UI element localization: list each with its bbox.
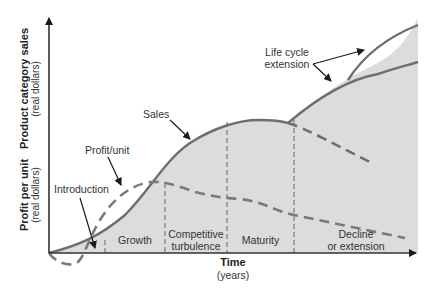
extension-callout-label: Life cycle extension xyxy=(257,46,317,70)
extension-label-line1: Life cycle xyxy=(265,46,309,58)
sales-callout-label: Sales xyxy=(143,108,169,120)
time-axis-unit: (years) xyxy=(208,269,258,281)
sales-area-fill xyxy=(49,18,418,253)
sales-axis-unit: (real dollars) xyxy=(30,29,41,149)
profit-axis-unit: (real dollars) xyxy=(30,155,41,235)
sales-axis-title: Product category sales xyxy=(18,29,30,149)
introduction-callout-label: Introduction xyxy=(54,183,109,195)
stage-decline-label: Decline or extension xyxy=(294,228,418,252)
time-axis-title: Time xyxy=(208,256,258,269)
profit-callout-label: Profit/unit xyxy=(85,144,129,156)
x-axis-label: Time (years) xyxy=(208,256,258,281)
stage-competitive-turbulence-label: Competitive turbulence xyxy=(165,228,227,252)
stage-maturity-label: Maturity xyxy=(227,234,294,246)
y-axis-upper-label: Product category sales (real dollars) xyxy=(18,29,44,149)
stage-growth-label: Growth xyxy=(105,234,165,246)
profit-axis-title: Profit per unit xyxy=(18,155,30,235)
profit-callout-arrow xyxy=(108,157,121,185)
extension-label-line2: extension xyxy=(265,58,310,70)
y-axis-lower-label: Profit per unit (real dollars) xyxy=(18,155,44,235)
extension-callout-arrow-upper xyxy=(313,50,364,64)
sales-callout-arrow xyxy=(170,120,190,139)
